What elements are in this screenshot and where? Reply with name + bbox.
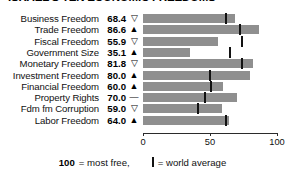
bar-track bbox=[143, 93, 277, 102]
row-label-monetary-freedom: Monetary Freedom bbox=[0, 58, 99, 69]
axis-tick-label: 50 bbox=[195, 137, 225, 147]
bar-fill bbox=[143, 104, 222, 113]
bar-track bbox=[143, 48, 277, 57]
row-value: 60.0 bbox=[101, 81, 126, 92]
bar-track bbox=[143, 59, 277, 68]
world-average-marker bbox=[209, 70, 211, 81]
bar-track bbox=[143, 37, 277, 46]
trend-down-icon: ▽ bbox=[128, 36, 140, 47]
trend-up-icon: ▲ bbox=[128, 115, 140, 126]
legend-item-scale: 100 = most free, bbox=[59, 157, 130, 168]
trend-down-icon: ▽ bbox=[128, 103, 140, 114]
page-title: ISRAEL'S TEN ECONOMIC FREEDOMS bbox=[8, 0, 216, 3]
chart-row: Fiscal Freedom55.9▽ bbox=[0, 36, 285, 47]
world-average-marker bbox=[210, 81, 212, 92]
x-axis: 050100 bbox=[143, 133, 277, 134]
chart-row: Property Rights70.0— bbox=[0, 92, 285, 103]
row-value: 55.9 bbox=[101, 36, 126, 47]
bar-track bbox=[143, 104, 277, 113]
world-average-marker bbox=[225, 115, 227, 126]
axis-tick-label: 0 bbox=[128, 137, 158, 147]
world-average-marker bbox=[204, 92, 206, 103]
row-value: 68.4 bbox=[101, 13, 126, 24]
trend-down-icon: ▽ bbox=[128, 13, 140, 24]
chart-legend: 100 = most free, = world average bbox=[0, 154, 285, 170]
bar-track bbox=[143, 25, 277, 34]
bar-track bbox=[143, 116, 277, 125]
row-label-property-rights: Property Rights bbox=[0, 92, 99, 103]
row-label-financial-freedom: Financial Freedom bbox=[0, 81, 99, 92]
chart-row: Business Freedom68.4▽ bbox=[0, 13, 285, 24]
axis-tick bbox=[143, 133, 144, 136]
row-value: 59.0 bbox=[101, 103, 126, 114]
bar-track bbox=[143, 82, 277, 91]
world-average-marker-icon bbox=[152, 157, 154, 167]
world-average-marker bbox=[241, 36, 243, 47]
row-label-business-freedom: Business Freedom bbox=[0, 13, 99, 24]
row-label-fdm-fm-corruption: Fdm fm Corruption bbox=[0, 103, 99, 114]
bar-track bbox=[143, 14, 277, 23]
bar-fill bbox=[143, 25, 259, 34]
axis-tick bbox=[210, 133, 211, 136]
row-label-investment-freedom: Investment Freedom bbox=[0, 70, 99, 81]
legend-average-text: = world average bbox=[158, 157, 227, 168]
trend-up-icon: ▲ bbox=[128, 70, 140, 81]
chart-row: Investment Freedom80.0▲ bbox=[0, 70, 285, 81]
bar-track bbox=[143, 71, 277, 80]
world-average-marker bbox=[239, 24, 241, 35]
axis-tick-label: 100 bbox=[262, 137, 285, 147]
bar-fill bbox=[143, 37, 218, 46]
row-value: 35.1 bbox=[101, 47, 126, 58]
chart-row: Labor Freedom64.0▲ bbox=[0, 115, 285, 126]
legend-scale-text: = most free, bbox=[79, 157, 130, 168]
row-label-trade-freedom: Trade Freedom bbox=[0, 24, 99, 35]
row-value: 80.0 bbox=[101, 70, 126, 81]
trend-down-icon: ▽ bbox=[128, 58, 140, 69]
chart-row: Fdm fm Corruption59.0▽ bbox=[0, 103, 285, 114]
trend-flat-icon: — bbox=[128, 92, 140, 103]
row-value: 64.0 bbox=[101, 115, 126, 126]
chart-row: Financial Freedom60.0▲ bbox=[0, 81, 285, 92]
world-average-marker bbox=[241, 58, 243, 69]
chart-row: Trade Freedom86.6▲ bbox=[0, 24, 285, 35]
chart-plot-area: Business Freedom68.4▽Trade Freedom86.6▲F… bbox=[0, 12, 285, 129]
bar-fill bbox=[143, 59, 253, 68]
row-label-government-size: Government Size bbox=[0, 47, 99, 58]
row-label-fiscal-freedom: Fiscal Freedom bbox=[0, 36, 99, 47]
bar-fill bbox=[143, 48, 190, 57]
world-average-marker bbox=[229, 47, 231, 58]
trend-up-icon: ▲ bbox=[128, 47, 140, 58]
axis-tick bbox=[277, 133, 278, 136]
trend-up-icon: ▲ bbox=[128, 24, 140, 35]
row-label-labor-freedom: Labor Freedom bbox=[0, 115, 99, 126]
row-value: 86.6 bbox=[101, 24, 126, 35]
bar-fill bbox=[143, 14, 235, 23]
legend-item-world-average: = world average bbox=[152, 157, 227, 168]
world-average-marker bbox=[225, 13, 227, 24]
world-average-marker bbox=[197, 103, 199, 114]
row-value: 81.8 bbox=[101, 58, 126, 69]
legend-scale-value: 100 bbox=[59, 157, 75, 168]
trend-up-icon: ▲ bbox=[128, 81, 140, 92]
bar-fill bbox=[143, 71, 250, 80]
bar-fill bbox=[143, 93, 237, 102]
chart-row: Government Size35.1▲ bbox=[0, 47, 285, 58]
bar-fill bbox=[143, 116, 229, 125]
row-value: 70.0 bbox=[101, 92, 126, 103]
chart-row: Monetary Freedom81.8▽ bbox=[0, 58, 285, 69]
